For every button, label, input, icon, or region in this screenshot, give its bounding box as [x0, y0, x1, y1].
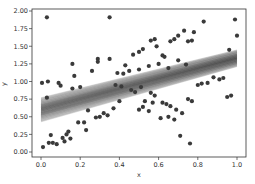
data-point	[233, 17, 237, 21]
data-point	[166, 66, 170, 70]
data-point	[106, 113, 110, 117]
data-point	[178, 134, 182, 138]
data-point	[51, 141, 55, 145]
data-point	[45, 15, 49, 19]
data-point	[166, 115, 170, 119]
data-point	[90, 69, 94, 73]
y-tick-label: 0.75	[14, 95, 28, 103]
data-point	[147, 64, 151, 68]
data-point	[108, 15, 112, 19]
y-tick-label: 1.25	[14, 60, 28, 68]
data-point	[227, 48, 231, 52]
data-point	[225, 95, 229, 99]
data-point	[168, 39, 172, 43]
x-axis-label: x	[137, 171, 141, 179]
scatter-chart: 0.00.20.40.60.81.0 0.000.250.500.751.001…	[0, 0, 255, 184]
data-point	[186, 97, 190, 101]
data-point	[221, 76, 225, 80]
x-axis-ticks: 0.00.20.40.60.81.0	[36, 157, 242, 169]
data-point	[153, 37, 157, 41]
data-point	[172, 118, 176, 122]
data-point	[108, 57, 112, 61]
data-point	[55, 142, 59, 146]
y-tick-label: 0.00	[14, 148, 28, 156]
data-point	[76, 120, 80, 124]
data-point	[229, 94, 233, 98]
data-point	[192, 30, 196, 34]
data-point	[96, 60, 100, 64]
data-point	[137, 67, 141, 71]
data-point	[49, 133, 53, 137]
y-tick-label: 1.00	[14, 78, 28, 86]
data-point	[117, 99, 121, 103]
y-tick-label: 0.50	[14, 113, 28, 121]
data-point	[143, 99, 147, 103]
data-point	[157, 62, 161, 66]
y-tick-label: 1.50	[14, 43, 28, 51]
data-point	[141, 105, 145, 109]
data-point	[164, 102, 168, 106]
x-tick-label: 0.6	[153, 161, 163, 169]
data-point	[123, 63, 127, 67]
data-point	[141, 47, 145, 51]
data-point	[131, 53, 135, 57]
data-point	[159, 116, 163, 120]
data-point	[133, 90, 137, 94]
data-point	[196, 83, 200, 87]
data-point	[127, 69, 131, 73]
x-tick-label: 0.8	[193, 161, 203, 169]
data-point	[111, 106, 115, 110]
y-tick-label: 0.25	[14, 131, 28, 139]
data-point	[72, 74, 76, 78]
x-tick-label: 1.0	[232, 161, 242, 169]
data-point	[70, 86, 74, 90]
data-point	[47, 141, 51, 145]
data-point	[182, 29, 186, 33]
data-point	[184, 63, 188, 67]
data-point	[151, 101, 155, 105]
data-point	[82, 120, 86, 124]
data-point	[202, 20, 206, 24]
data-point	[200, 82, 204, 86]
data-point	[206, 81, 210, 85]
data-point	[235, 34, 239, 38]
data-point	[119, 84, 123, 88]
data-point	[68, 137, 72, 141]
data-point	[160, 101, 164, 105]
data-point	[188, 141, 192, 145]
data-point	[121, 72, 125, 76]
data-point	[180, 111, 184, 115]
data-point	[149, 91, 153, 95]
data-point	[186, 39, 190, 43]
data-point	[137, 50, 141, 54]
data-point	[129, 88, 133, 92]
data-point	[98, 115, 102, 119]
data-point	[78, 85, 82, 89]
x-tick-label: 0.2	[75, 161, 85, 169]
data-point	[168, 104, 172, 108]
data-point	[113, 83, 117, 87]
data-point	[102, 111, 106, 115]
data-point	[94, 115, 98, 119]
data-point	[137, 108, 141, 112]
data-point	[41, 145, 45, 149]
data-point	[190, 39, 194, 43]
y-tick-label: 2.00	[14, 7, 28, 15]
x-tick-label: 0.4	[114, 161, 124, 169]
data-point	[45, 96, 49, 100]
data-point	[115, 71, 119, 75]
data-point	[66, 130, 70, 134]
data-point	[176, 34, 180, 38]
data-point	[59, 84, 63, 88]
y-tick-label: 1.75	[14, 25, 28, 33]
data-point	[217, 77, 221, 81]
data-point	[46, 79, 50, 83]
data-point	[70, 62, 74, 66]
data-point	[139, 85, 143, 89]
y-axis-ticks: 0.000.250.500.751.001.251.501.752.00	[14, 7, 32, 156]
data-point	[153, 94, 157, 98]
data-point	[172, 37, 176, 41]
data-point	[62, 139, 66, 143]
data-point	[162, 55, 166, 59]
data-point	[147, 109, 151, 113]
